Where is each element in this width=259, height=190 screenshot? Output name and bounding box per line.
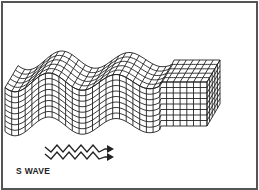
zigzag-arrow-icon — [45, 145, 114, 161]
s-wave-label: S WAVE — [16, 166, 50, 176]
s-wave-grid-block — [0, 0, 259, 190]
